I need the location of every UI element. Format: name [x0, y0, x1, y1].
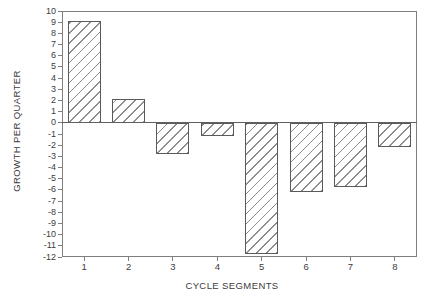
y-tick-label: -2 [34, 141, 56, 150]
y-tick-mark [58, 33, 62, 34]
y-tick-label: 9 [34, 18, 56, 27]
y-tick-label: -11 [34, 241, 56, 250]
x-tick-label: 2 [119, 262, 139, 272]
y-tick-mark [58, 66, 62, 67]
y-tick-mark [58, 145, 62, 146]
bar-segment-2 [112, 99, 145, 122]
x-tick-label: 6 [296, 262, 316, 272]
x-tick-label: 8 [385, 262, 405, 272]
x-tick-label: 4 [207, 262, 227, 272]
x-axis-title: CYCLE SEGMENTS [132, 280, 332, 291]
y-tick-label: 3 [34, 85, 56, 94]
y-tick-label: -5 [34, 174, 56, 183]
y-tick-mark [58, 156, 62, 157]
y-tick-label: 7 [34, 40, 56, 49]
y-tick-label: -9 [34, 219, 56, 228]
y-tick-mark [58, 111, 62, 112]
y-tick-label: -3 [34, 152, 56, 161]
y-tick-label: -6 [34, 185, 56, 194]
y-tick-mark [58, 100, 62, 101]
y-tick-label: -10 [34, 230, 56, 239]
y-tick-mark [58, 245, 62, 246]
y-tick-mark [58, 201, 62, 202]
x-tick-label: 1 [74, 262, 94, 272]
y-tick-label: -12 [34, 253, 56, 262]
y-tick-mark [58, 212, 62, 213]
y-tick-mark [58, 167, 62, 168]
x-tick-label: 5 [252, 262, 272, 272]
bar-segment-7 [334, 123, 367, 187]
y-tick-label: -8 [34, 208, 56, 217]
y-tick-label: 5 [34, 62, 56, 71]
x-tick-label: 3 [163, 262, 183, 272]
y-tick-mark [58, 234, 62, 235]
y-tick-label: -4 [34, 163, 56, 172]
y-tick-mark [58, 78, 62, 79]
zero-axis-line [62, 122, 417, 123]
y-tick-label: 6 [34, 51, 56, 60]
y-tick-label: 8 [34, 29, 56, 38]
bar-segment-1 [68, 21, 101, 123]
y-tick-label: 0 [34, 118, 56, 127]
y-axis-title: GROWTH PER QUARTER [11, 51, 23, 211]
y-tick-mark [58, 223, 62, 224]
y-tick-label: 10 [34, 7, 56, 16]
x-tick-label: 7 [340, 262, 360, 272]
y-tick-label: -1 [34, 130, 56, 139]
y-tick-mark [58, 178, 62, 179]
y-tick-mark [58, 89, 62, 90]
y-tick-mark [58, 22, 62, 23]
y-tick-mark [58, 257, 62, 258]
y-tick-mark [58, 134, 62, 135]
y-tick-mark [58, 55, 62, 56]
bar-segment-4 [201, 123, 234, 136]
y-tick-mark [58, 11, 62, 12]
y-tick-label: 4 [34, 74, 56, 83]
y-tick-mark [58, 189, 62, 190]
bar-segment-8 [378, 123, 411, 148]
y-tick-label: 2 [34, 96, 56, 105]
y-tick-mark [58, 44, 62, 45]
bar-segment-5 [245, 123, 278, 254]
y-tick-label: 1 [34, 107, 56, 116]
bar-segment-3 [156, 123, 189, 154]
bar-chart-figure: GROWTH PER QUARTER CYCLE SEGMENTS 109876… [0, 0, 429, 301]
bar-segment-6 [290, 123, 323, 192]
y-tick-label: -7 [34, 197, 56, 206]
